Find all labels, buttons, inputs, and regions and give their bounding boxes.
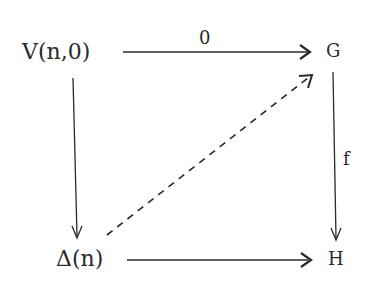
arrow-left bbox=[72, 78, 82, 238]
label-top-arrow: 0 bbox=[199, 29, 210, 47]
node-top-left: V(n,0) bbox=[22, 41, 90, 63]
arrow-top bbox=[123, 45, 310, 59]
node-bottom-left: Δ(n) bbox=[56, 248, 103, 270]
node-top-right: G bbox=[326, 42, 340, 60]
arrow-bottom bbox=[127, 253, 311, 267]
label-right-arrow: f bbox=[343, 150, 350, 168]
arrow-diagonal-dashed bbox=[107, 75, 312, 235]
arrow-right bbox=[331, 72, 341, 240]
node-bottom-right: H bbox=[328, 250, 344, 268]
